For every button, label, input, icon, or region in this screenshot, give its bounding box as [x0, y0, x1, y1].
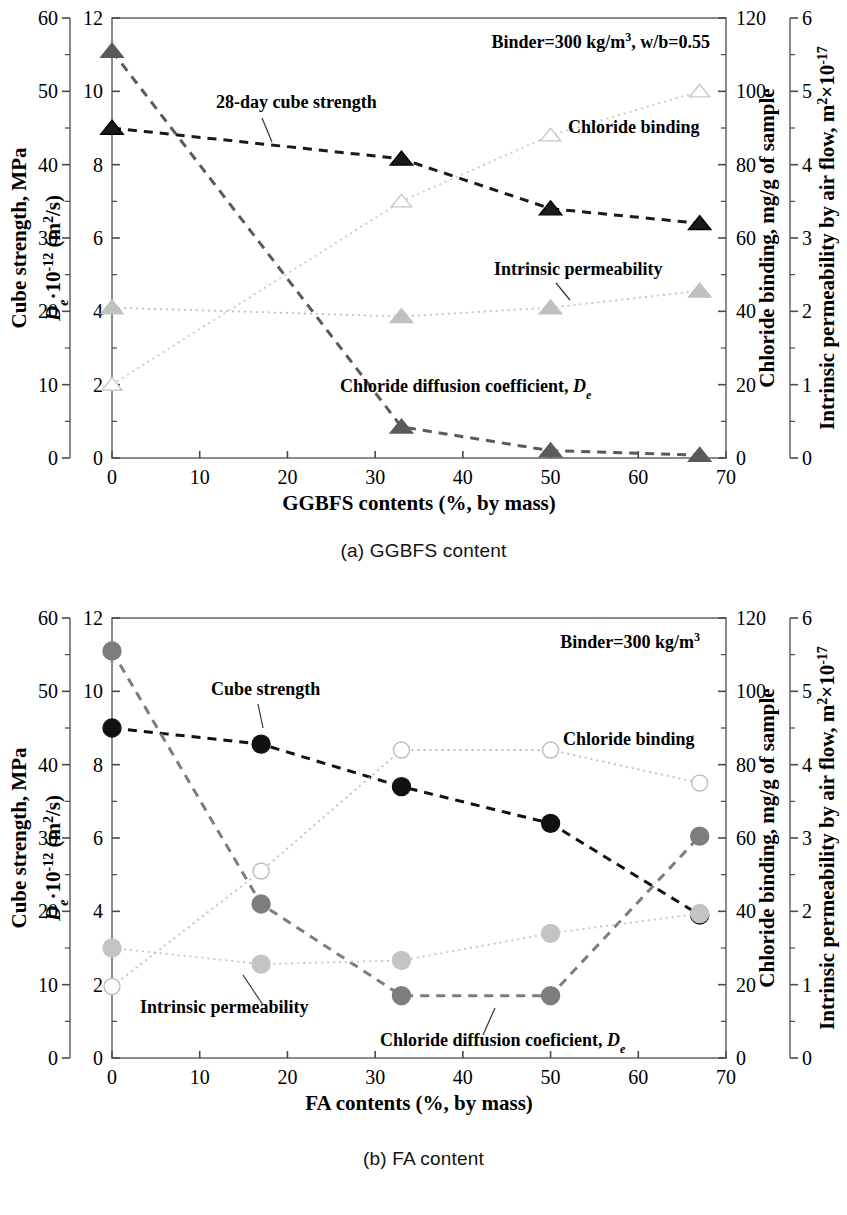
y-right-outer-tick-label: 0: [802, 447, 812, 469]
y-right-inner-tick-label: 20: [736, 374, 756, 396]
x-tick-label: 30: [365, 1066, 385, 1088]
y-right-inner-tick-label: 60: [736, 827, 756, 849]
series-chloride-diffusion-coeficient-de: [103, 642, 709, 1005]
y-left-inner-tick-label: 8: [93, 754, 103, 776]
label-cube-strength: Cube strength: [211, 679, 320, 699]
y-right-outer-tick-label: 4: [802, 754, 812, 776]
y-right-inner-tick-label: 120: [736, 7, 766, 29]
x-tick-label: 60: [628, 466, 648, 488]
x-tick-label: 30: [365, 466, 385, 488]
y-right-outer-tick-label: 1: [802, 974, 812, 996]
y-right-outer-tick-label: 2: [802, 900, 812, 922]
series-chloride-diffusion-coefficient-de: [101, 43, 711, 461]
x-tick-label: 70: [716, 1066, 736, 1088]
x-tick-label: 60: [628, 1066, 648, 1088]
y-right-inner-tick-label: 0: [736, 447, 746, 469]
x-tick-label: 20: [277, 466, 297, 488]
chart-figure-fa: 010203040506070FA contents (%, by mass)0…: [0, 600, 847, 1215]
label-chloride-binding: Chloride binding: [568, 117, 700, 137]
y-right-outer-tick-label: 0: [802, 1047, 812, 1069]
y-left-inner-tick-label: 4: [93, 300, 103, 322]
x-tick-label: 20: [277, 1066, 297, 1088]
y-left-outer-tick-label: 50: [38, 80, 58, 102]
y-right-outer-tick-label: 3: [802, 227, 812, 249]
y-right-inner-tick-label: 0: [736, 1047, 746, 1069]
y-left-inner-tick-label: 0: [93, 447, 103, 469]
label-chloride-binding: Chloride binding: [563, 729, 695, 749]
x-tick-label: 40: [453, 466, 473, 488]
y-right-inner-tick-label: 80: [736, 154, 756, 176]
y-left-inner-tick-label: 0: [93, 1047, 103, 1069]
figure-b-caption: (b) FA content: [0, 1148, 847, 1170]
x-tick-label: 70: [716, 466, 736, 488]
chart-figure-ggbfs: 010203040506070GGBFS contents (%, by mas…: [0, 0, 847, 600]
figure-page: 010203040506070GGBFS contents (%, by mas…: [0, 0, 847, 1215]
y-right-outer-axis-title: Intrinsic permeability by air flow, m2×1…: [815, 46, 840, 430]
x-axis-title: GGBFS contents (%, by mass): [282, 491, 556, 515]
x-tick-label: 40: [453, 1066, 473, 1088]
y-right-outer-tick-label: 6: [802, 7, 812, 29]
label-cube-strength: 28-day cube strength: [216, 92, 377, 112]
mix-design-annotation: Binder=300 kg/m3, w/b=0.55: [491, 30, 710, 52]
y-left-inner-tick-label: 2: [93, 974, 103, 996]
y-left-inner-tick-label: 12: [83, 7, 103, 29]
x-axis-title: FA contents (%, by mass): [305, 1091, 533, 1115]
x-tick-label: 50: [541, 466, 561, 488]
series-intrinsic-permeability: [103, 905, 709, 974]
y-left-outer-tick-label: 10: [38, 374, 58, 396]
y-right-outer-tick-label: 6: [802, 607, 812, 629]
label-chloride-diffusion: Chloride diffusion coeficient, De: [380, 1030, 626, 1056]
y-left-inner-tick-label: 10: [83, 80, 103, 102]
y-right-outer-tick-label: 3: [802, 827, 812, 849]
y-left-outer-tick-label: 10: [38, 974, 58, 996]
y-left-inner-tick-label: 10: [83, 680, 103, 702]
y-left-outer-tick-label: 40: [38, 154, 58, 176]
y-left-inner-tick-label: 6: [93, 227, 103, 249]
y-left-inner-tick-label: 2: [93, 374, 103, 396]
x-tick-label: 0: [107, 1066, 117, 1088]
y-right-outer-axis-title: Intrinsic permeability by air flow, m2×1…: [815, 646, 840, 1030]
chart-a-canvas: 010203040506070GGBFS contents (%, by mas…: [0, 0, 847, 540]
y-left-outer-tick-label: 0: [48, 447, 58, 469]
y-left-inner-tick-label: 4: [93, 900, 103, 922]
y-left-inner-tick-label: 8: [93, 154, 103, 176]
y-left-outer-axis-title: Cube strength, MPa: [7, 747, 31, 929]
y-left-outer-tick-label: 0: [48, 1047, 58, 1069]
y-right-inner-tick-label: 40: [736, 900, 756, 922]
x-tick-label: 10: [190, 466, 210, 488]
y-right-inner-tick-label: 120: [736, 607, 766, 629]
label-intrinsic-permeability: Intrinsic permeability: [494, 259, 663, 279]
figure-a-caption: (a) GGBFS content: [0, 540, 847, 562]
y-left-inner-tick-label: 12: [83, 607, 103, 629]
x-tick-label: 50: [541, 1066, 561, 1088]
y-right-outer-tick-label: 1: [802, 374, 812, 396]
x-tick-label: 10: [190, 1066, 210, 1088]
y-right-inner-axis-title: Chloride binding, mg/g of sample: [755, 688, 779, 987]
x-tick-label: 0: [107, 466, 117, 488]
y-right-outer-tick-label: 5: [802, 80, 812, 102]
mix-design-annotation: Binder=300 kg/m3: [560, 630, 700, 652]
chart-b-canvas: 010203040506070FA contents (%, by mass)0…: [0, 600, 847, 1148]
label-intrinsic-permeability: Intrinsic permeability: [140, 997, 309, 1017]
y-right-inner-tick-label: 40: [736, 300, 756, 322]
y-right-inner-tick-label: 60: [736, 227, 756, 249]
y-right-inner-axis-title: Chloride binding, mg/g of sample: [755, 88, 779, 387]
y-left-outer-tick-label: 60: [38, 7, 58, 29]
y-left-inner-tick-label: 6: [93, 827, 103, 849]
series-intrinsic-permeability: [101, 283, 711, 323]
y-left-outer-axis-title: Cube strength, MPa: [7, 147, 31, 329]
y-right-inner-tick-label: 20: [736, 974, 756, 996]
y-right-outer-tick-label: 5: [802, 680, 812, 702]
y-left-outer-tick-label: 50: [38, 680, 58, 702]
y-right-outer-tick-label: 2: [802, 300, 812, 322]
y-left-outer-tick-label: 40: [38, 754, 58, 776]
y-right-outer-tick-label: 4: [802, 154, 812, 176]
y-right-inner-tick-label: 80: [736, 754, 756, 776]
y-left-outer-tick-label: 60: [38, 607, 58, 629]
